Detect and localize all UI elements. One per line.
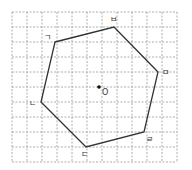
vertex-label-nieun: ㄴ: [29, 99, 36, 108]
vertex-label-mieum: ㅁ: [162, 68, 169, 77]
center-point-o: [97, 85, 101, 89]
vertex-label-giyeok: ㄱ: [44, 33, 51, 42]
vertex-label-rieul: ㄹ: [146, 135, 153, 144]
vertex-label-digeut: ㄷ: [81, 150, 88, 159]
vertex-label-bieup: ㅂ: [110, 15, 117, 24]
center-label-o: O: [102, 88, 108, 97]
hexagon-grid-diagram: ㄱ ㅂ ㅁ ㄹ ㄷ ㄴ O: [0, 0, 192, 170]
